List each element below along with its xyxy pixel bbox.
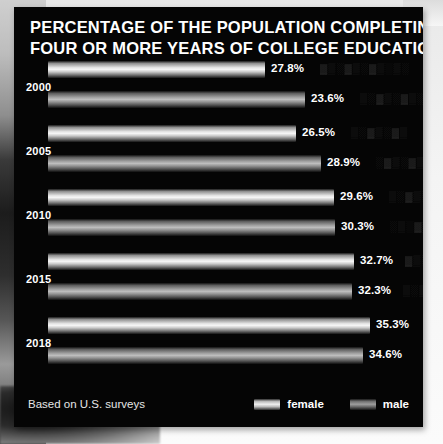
- chart-legend: female male: [254, 398, 409, 410]
- bar-2010-female: [48, 189, 334, 206]
- chart-title-line-2: FOUR OR MORE YEARS OF COLLEGE EDUCATION: [30, 38, 414, 59]
- bar-group-2005: 2005 26.5% ▒░▓▒░▓▒ 28.9% ░▓▒░▓▒░: [14, 123, 423, 185]
- bar-group-2018: 2018 35.3% 34.6%: [14, 315, 423, 377]
- ghost-text-2000-male: ▒░▓▒░▓▒░: [360, 93, 423, 104]
- bar-row-2000-female: 27.8% ▓▒░▓▒░▓▒░▒░: [48, 61, 418, 78]
- bar-group-2015: 2015 32.7% ▓▒░▒ 32.3% ▒░▒: [14, 251, 423, 313]
- bar-2005-male: [48, 155, 321, 172]
- source-note: Based on U.S. surveys: [28, 398, 145, 410]
- chart-title: PERCENTAGE OF THE POPULATION COMPLETING …: [30, 17, 414, 59]
- bar-row-2015-male: 32.3% ▒░▒: [48, 283, 418, 300]
- legend-item-male: male: [350, 398, 409, 410]
- bar-2018-female: [48, 317, 370, 334]
- bar-row-2005-female: 26.5% ▒░▓▒░▓▒: [48, 125, 418, 142]
- bar-2015-female: [48, 253, 354, 270]
- bar-row-2018-female: 35.3%: [48, 317, 418, 334]
- bar-2010-male: [48, 219, 335, 236]
- chart-title-line-1: PERCENTAGE OF THE POPULATION COMPLETING: [30, 17, 414, 38]
- legend-swatch-male-icon: [350, 399, 376, 410]
- ghost-text-2015-male: ▒░▒: [403, 285, 423, 296]
- infographic-canvas: PERCENTAGE OF THE POPULATION COMPLETING …: [0, 0, 443, 444]
- bar-row-2015-female: 32.7% ▓▒░▒: [48, 253, 418, 270]
- ghost-text-2005-male: ░▓▒░▓▒░: [376, 157, 423, 168]
- chart-plot-area: 2000 27.8% ▓▒░▓▒░▓▒░▒░ 23.6% ▒░▓▒░▓▒░ 20…: [14, 59, 423, 377]
- bar-value-2010-male: 30.3%: [341, 220, 374, 232]
- bar-2015-male: [48, 283, 352, 300]
- legend-swatch-female-icon: [254, 399, 280, 410]
- bar-value-2010-female: 29.6%: [340, 190, 373, 202]
- bar-value-2015-female: 32.7%: [360, 254, 393, 266]
- bar-value-2018-male: 34.6%: [369, 348, 402, 360]
- bar-group-2000: 2000 27.8% ▓▒░▓▒░▓▒░▒░ 23.6% ▒░▓▒░▓▒░: [14, 59, 423, 121]
- legend-label-male: male: [383, 398, 409, 410]
- bar-value-2000-female: 27.8%: [271, 62, 304, 74]
- bar-row-2005-male: 28.9% ░▓▒░▓▒░: [48, 155, 418, 172]
- ghost-text-2010-female: ▒░▓▒░▒: [389, 191, 423, 202]
- bar-row-2010-male: 30.3% ░▒░▓▒: [48, 219, 418, 236]
- bar-value-2005-female: 26.5%: [302, 126, 335, 138]
- bar-value-2000-male: 23.6%: [311, 92, 344, 104]
- bar-row-2000-male: 23.6% ▒░▓▒░▓▒░: [48, 91, 418, 108]
- bar-2000-male: [48, 91, 305, 108]
- bar-value-2015-male: 32.3%: [358, 284, 391, 296]
- ghost-text-2015-female: ▓▒░▒: [405, 255, 423, 266]
- legend-label-female: female: [287, 398, 323, 410]
- bar-2018-male: [48, 347, 363, 364]
- bar-2000-female: [48, 61, 265, 78]
- bar-row-2010-female: 29.6% ▒░▓▒░▒: [48, 189, 418, 206]
- legend-item-female: female: [254, 398, 323, 410]
- bar-row-2018-male: 34.6%: [48, 347, 418, 364]
- ghost-text-2010-male: ░▒░▓▒: [390, 221, 423, 232]
- ghost-text-2005-female: ▒░▓▒░▓▒: [351, 127, 408, 138]
- bar-value-2005-male: 28.9%: [327, 156, 360, 168]
- bar-group-2010: 2010 29.6% ▒░▓▒░▒ 30.3% ░▒░▓▒: [14, 187, 423, 249]
- bar-2005-female: [48, 125, 296, 142]
- chart-card: PERCENTAGE OF THE POPULATION COMPLETING …: [14, 7, 423, 427]
- ghost-text-2000-female: ▓▒░▓▒░▓▒░▒░: [320, 63, 410, 74]
- bar-value-2018-female: 35.3%: [376, 318, 409, 330]
- chart-footer: Based on U.S. surveys female male: [14, 387, 423, 427]
